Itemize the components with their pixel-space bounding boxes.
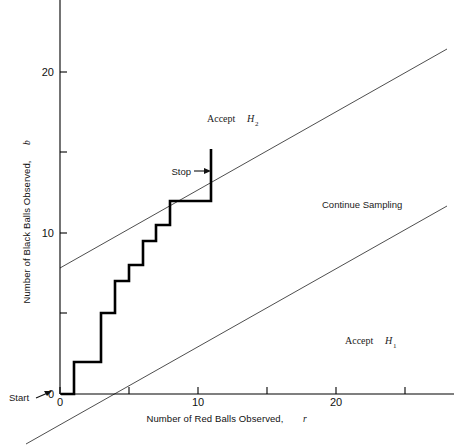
continue-sampling-region-label: Continue Sampling <box>322 199 402 210</box>
stop-label: Stop <box>171 166 191 177</box>
start-annotation: Start <box>9 391 52 403</box>
accept-h1-hypothesis: H <box>384 335 393 346</box>
y-axis-title: Number of Black Balls Observed, b <box>21 140 32 304</box>
x-tick-label-10: 10 <box>192 396 204 408</box>
axes-lines <box>60 0 454 394</box>
continue-sampling-text: Continue Sampling <box>322 199 402 210</box>
accept-h1-text: Accept <box>345 335 374 346</box>
accept-h2-subscript: 2 <box>255 120 259 128</box>
start-label: Start <box>9 392 29 403</box>
lower-boundary-line <box>26 206 447 444</box>
sample-path-step-line <box>61 149 211 394</box>
y-tick-label-10: 10 <box>42 227 54 239</box>
x-axis-title: Number of Red Balls Observed, r <box>146 413 307 424</box>
accept-h2-hypothesis: H <box>246 113 255 124</box>
y-axis-title-text: Number of Black Balls Observed, <box>21 160 32 303</box>
x-tick-label-0: 0 <box>57 396 63 408</box>
accept-h2-text: Accept <box>207 113 236 124</box>
accept-h1-region-label: Accept H 1 <box>345 335 397 350</box>
decision-boundaries <box>26 49 447 444</box>
y-tick-labels: 0 10 20 <box>42 66 54 400</box>
x-axis-title-variable: r <box>303 414 307 424</box>
x-axis-ticks <box>60 387 405 394</box>
y-axis-title-variable: b <box>22 140 32 145</box>
y-axis-ticks <box>60 72 67 394</box>
x-tick-label-20: 20 <box>330 396 342 408</box>
accept-h2-region-label: Accept H 2 <box>207 113 259 128</box>
stop-annotation: Stop <box>171 166 211 177</box>
x-axis-title-text: Number of Red Balls Observed, <box>146 413 283 424</box>
accept-h1-subscript: 1 <box>393 342 397 350</box>
sequential-sampling-figure: 0 10 20 0 10 20 Number of Red Balls Obse… <box>0 0 454 445</box>
chart-canvas: 0 10 20 0 10 20 Number of Red Balls Obse… <box>0 0 454 445</box>
y-tick-label-20: 20 <box>42 66 54 78</box>
upper-boundary-line <box>60 49 447 268</box>
